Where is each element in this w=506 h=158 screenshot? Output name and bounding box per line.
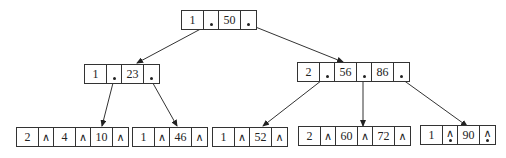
- key-cell: 90: [458, 126, 480, 144]
- edge-mid-right-to-leaf5: [399, 77, 467, 126]
- key-cell: 50: [219, 11, 241, 29]
- null-pointer-icon: ∧: [398, 131, 406, 142]
- pointer-cell: [204, 11, 219, 29]
- key-count: 1: [213, 128, 235, 146]
- null-pointer-icon: ∧: [483, 128, 491, 139]
- key-cell: 10: [91, 128, 113, 146]
- root-node: 1 50: [181, 10, 257, 30]
- null-pointer-cell: ∧: [443, 126, 458, 144]
- null-pointer-cell: ∧: [480, 126, 495, 144]
- key-count: 2: [17, 128, 39, 146]
- null-pointer-icon: ∧: [195, 132, 203, 143]
- pointer-dot-icon: [210, 23, 213, 26]
- pointer-cell: [241, 11, 256, 29]
- pointer-dot-icon: [486, 139, 489, 142]
- pointer-dot-icon: [113, 77, 116, 80]
- null-pointer-icon: ∧: [158, 132, 166, 143]
- null-pointer-icon: ∧: [361, 131, 369, 142]
- pointer-cell: [320, 63, 335, 81]
- edge-mid-left-to-leaf1: [102, 79, 114, 126]
- key-cell: 23: [122, 65, 144, 83]
- pointer-dot-icon: [326, 75, 329, 78]
- key-count: 1: [85, 65, 107, 83]
- pointer-dot-icon: [363, 75, 366, 78]
- key-cell: 86: [372, 63, 394, 81]
- key-cell: 52: [250, 128, 272, 146]
- leaf-node-2: 1 ∧ 46 ∧: [132, 127, 208, 147]
- null-pointer-cell: ∧: [358, 127, 373, 145]
- pointer-dot-icon: [400, 75, 403, 78]
- mid-right-node: 2 56 86: [297, 62, 410, 82]
- mid-left-node: 1 23: [84, 64, 160, 84]
- null-pointer-icon: ∧: [42, 132, 50, 143]
- key-cell: 46: [170, 128, 192, 146]
- null-pointer-icon: ∧: [238, 132, 246, 143]
- key-cell: 72: [373, 127, 395, 145]
- pointer-cell: [394, 63, 409, 81]
- edge-mid-left-to-leaf2: [150, 78, 177, 126]
- key-count: 2: [298, 63, 320, 81]
- null-pointer-cell: ∧: [113, 128, 128, 146]
- pointer-cell: [144, 65, 159, 83]
- null-pointer-icon: ∧: [116, 132, 124, 143]
- pointer-dot-icon: [449, 139, 452, 142]
- leaf-node-5: 1 ∧ 90 ∧: [420, 125, 496, 145]
- null-pointer-cell: ∧: [39, 128, 54, 146]
- null-pointer-icon: ∧: [275, 132, 283, 143]
- key-count: 1: [421, 126, 443, 144]
- key-count: 1: [133, 128, 155, 146]
- null-pointer-cell: ∧: [76, 128, 91, 146]
- pointer-dot-icon: [247, 23, 250, 26]
- key-count: 2: [299, 127, 321, 145]
- leaf-node-4: 2 ∧ 60 ∧ 72 ∧: [298, 126, 411, 146]
- null-pointer-icon: ∧: [79, 132, 87, 143]
- pointer-dot-icon: [150, 77, 153, 80]
- null-pointer-cell: ∧: [395, 127, 410, 145]
- leaf-node-1: 2 ∧ 4 ∧ 10 ∧: [16, 127, 129, 147]
- key-cell: 60: [336, 127, 358, 145]
- pointer-cell: [357, 63, 372, 81]
- null-pointer-icon: ∧: [446, 128, 454, 139]
- edge-mid-right-to-leaf3: [263, 77, 326, 126]
- key-count: 1: [182, 11, 204, 29]
- key-cell: 56: [335, 63, 357, 81]
- null-pointer-cell: ∧: [192, 128, 207, 146]
- null-pointer-cell: ∧: [155, 128, 170, 146]
- leaf-node-3: 1 ∧ 52 ∧: [212, 127, 288, 147]
- edge-root-to-mid-right: [248, 24, 343, 62]
- pointer-cell: [107, 65, 122, 83]
- null-pointer-icon: ∧: [324, 131, 332, 142]
- null-pointer-cell: ∧: [235, 128, 250, 146]
- key-cell: 4: [54, 128, 76, 146]
- null-pointer-cell: ∧: [272, 128, 287, 146]
- null-pointer-cell: ∧: [321, 127, 336, 145]
